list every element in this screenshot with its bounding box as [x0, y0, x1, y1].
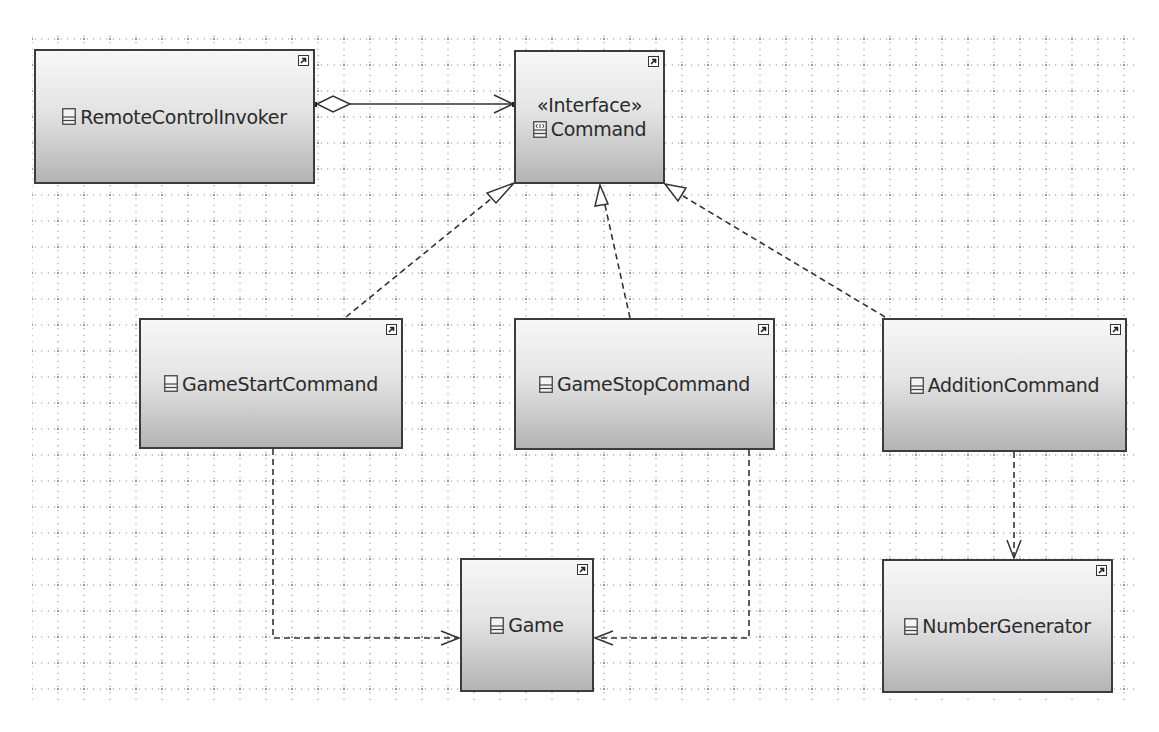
class-name: AdditionCommand	[928, 374, 1100, 396]
class-node-numbergenerator[interactable]: NumberGenerator	[882, 559, 1113, 693]
shortcut-arrow-icon[interactable]	[1096, 565, 1107, 576]
class-icon	[62, 108, 76, 125]
class-icon	[490, 617, 504, 634]
shortcut-arrow-icon[interactable]	[1110, 324, 1121, 335]
shortcut-arrow-icon[interactable]	[298, 55, 309, 66]
aggregation-edge-invoker-to-command[interactable]	[312, 95, 517, 113]
class-node-additioncommand[interactable]: AdditionCommand	[882, 318, 1127, 452]
class-node-gamestartcommand[interactable]: GameStartCommand	[139, 318, 403, 449]
interface-icon	[533, 121, 547, 138]
realization-edge-gamestart-to-command[interactable]	[346, 183, 514, 317]
interface-stereotype: «Interface»	[537, 94, 642, 116]
dependency-edge-gamestart-to-game[interactable]	[273, 449, 459, 645]
shortcut-arrow-icon[interactable]	[577, 564, 588, 575]
shortcut-arrow-icon[interactable]	[648, 56, 659, 67]
class-icon	[539, 376, 553, 393]
class-node-game[interactable]: Game	[460, 558, 594, 692]
dependency-edge-gamestop-to-game[interactable]	[595, 450, 749, 645]
class-icon	[164, 375, 178, 392]
realization-edge-addition-to-command[interactable]	[665, 184, 885, 317]
class-icon	[904, 618, 918, 635]
interface-node-command[interactable]: «Interface» Command	[514, 50, 665, 184]
class-node-remotecontrolinvoker[interactable]: RemoteControlInvoker	[34, 49, 315, 184]
realization-edge-gamestop-to-command[interactable]	[595, 185, 630, 318]
shortcut-arrow-icon[interactable]	[758, 324, 769, 335]
class-icon	[910, 377, 924, 394]
class-node-gamestopcommand[interactable]: GameStopCommand	[514, 318, 775, 450]
class-name: Game	[508, 614, 563, 636]
interface-name: Command	[551, 118, 647, 140]
class-name: GameStopCommand	[557, 373, 750, 395]
class-name: RemoteControlInvoker	[80, 106, 286, 128]
class-name: GameStartCommand	[182, 373, 378, 395]
dependency-edge-addition-to-numbergenerator[interactable]	[1007, 452, 1021, 558]
shortcut-arrow-icon[interactable]	[386, 324, 397, 335]
class-name: NumberGenerator	[922, 615, 1090, 637]
diagram-canvas[interactable]: RemoteControlInvoker «Interface» Command…	[0, 0, 1159, 732]
